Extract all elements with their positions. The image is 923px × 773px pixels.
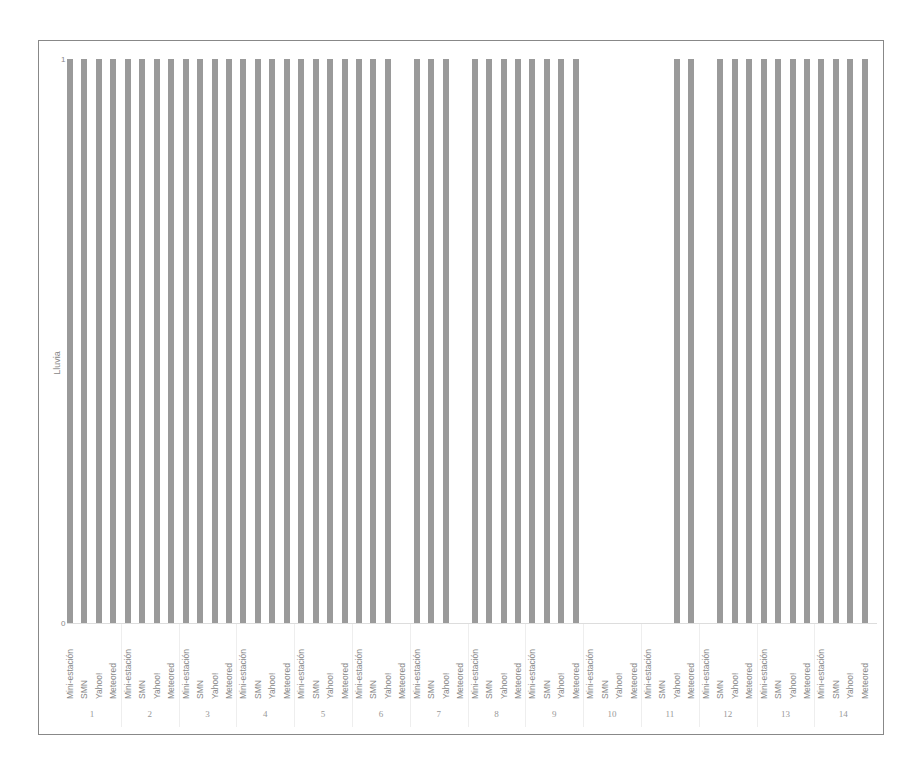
category-label: SMN xyxy=(715,680,725,699)
bar xyxy=(515,59,521,623)
bar xyxy=(298,59,304,623)
group-divider xyxy=(121,624,122,727)
bar xyxy=(443,59,449,623)
group-label: 13 xyxy=(781,709,790,719)
category-label: Yahoo! xyxy=(210,673,220,699)
group-label: 3 xyxy=(205,709,210,719)
chart-frame: Lluvia 1 0 1Mini-estaciónSMNYahoo!Meteor… xyxy=(38,40,884,735)
group-label: 12 xyxy=(723,709,732,719)
bar xyxy=(255,59,261,623)
bar xyxy=(313,59,319,623)
category-label: Yahoo! xyxy=(383,673,393,699)
category-label: SMN xyxy=(253,680,263,699)
bar xyxy=(573,59,579,623)
bar xyxy=(183,59,189,623)
category-label: Mini-estación xyxy=(816,649,826,699)
category-label: Yahoo! xyxy=(325,673,335,699)
bar xyxy=(240,59,246,623)
bar xyxy=(356,59,362,623)
group-divider xyxy=(410,624,411,727)
bar xyxy=(790,59,796,623)
category-label: Meteored xyxy=(340,663,350,699)
category-label: SMN xyxy=(657,680,667,699)
category-label: Mini-estación xyxy=(354,649,364,699)
bar xyxy=(284,59,290,623)
category-label: Meteored xyxy=(397,663,407,699)
group-label: 4 xyxy=(263,709,268,719)
bar xyxy=(385,59,391,623)
category-label: Mini-estación xyxy=(470,649,480,699)
category-label: Mini-estación xyxy=(585,649,595,699)
group-label: 2 xyxy=(147,709,152,719)
category-label: Mini-estación xyxy=(412,649,422,699)
y-tick-min: 0 xyxy=(61,619,65,628)
category-label: Mini-estación xyxy=(238,649,248,699)
category-label: Yahoo! xyxy=(499,673,509,699)
category-label: Mini-estación xyxy=(123,649,133,699)
category-label: Mini-estación xyxy=(65,649,75,699)
category-label: SMN xyxy=(600,680,610,699)
bar xyxy=(168,59,174,623)
bar xyxy=(486,59,492,623)
group-divider xyxy=(641,624,642,727)
bar xyxy=(761,59,767,623)
category-label: Meteored xyxy=(744,663,754,699)
category-label: Yahoo! xyxy=(556,673,566,699)
bar xyxy=(212,59,218,623)
bar xyxy=(775,59,781,623)
category-label: Yahoo! xyxy=(267,673,277,699)
category-label: SMN xyxy=(311,680,321,699)
bar xyxy=(197,59,203,623)
category-label: SMN xyxy=(773,680,783,699)
bar xyxy=(139,59,145,623)
group-divider xyxy=(699,624,700,727)
bar xyxy=(847,59,853,623)
group-label: 10 xyxy=(608,709,617,719)
bar xyxy=(414,59,420,623)
bar xyxy=(717,59,723,623)
group-label: 8 xyxy=(494,709,499,719)
category-label: Meteored xyxy=(108,663,118,699)
category-label: SMN xyxy=(484,680,494,699)
category-label: Meteored xyxy=(455,663,465,699)
bar xyxy=(96,59,102,623)
category-label: SMN xyxy=(195,680,205,699)
group-label: 5 xyxy=(321,709,326,719)
bar xyxy=(342,59,348,623)
category-label: Mini-estación xyxy=(527,649,537,699)
category-label: Mini-estación xyxy=(759,649,769,699)
x-axis-baseline xyxy=(67,623,877,624)
category-label: Meteored xyxy=(860,663,870,699)
category-label: Meteored xyxy=(224,663,234,699)
bar xyxy=(558,59,564,623)
category-label: Mini-estación xyxy=(296,649,306,699)
bar xyxy=(544,59,550,623)
bar xyxy=(269,59,275,623)
bar xyxy=(674,59,680,623)
group-label: 9 xyxy=(552,709,557,719)
group-divider xyxy=(468,624,469,727)
bar xyxy=(862,59,868,623)
bar xyxy=(110,59,116,623)
category-label: Yahoo! xyxy=(94,673,104,699)
category-label: Meteored xyxy=(282,663,292,699)
bar xyxy=(804,59,810,623)
group-divider xyxy=(757,624,758,727)
bar xyxy=(370,59,376,623)
bar xyxy=(81,59,87,623)
category-label: Yahoo! xyxy=(152,673,162,699)
category-label: Meteored xyxy=(166,663,176,699)
category-label: Meteored xyxy=(571,663,581,699)
category-label: Meteored xyxy=(802,663,812,699)
category-label: Yahoo! xyxy=(441,673,451,699)
category-label: Mini-estación xyxy=(643,649,653,699)
bar xyxy=(818,59,824,623)
category-label: Yahoo! xyxy=(614,673,624,699)
category-label: Yahoo! xyxy=(845,673,855,699)
category-label: SMN xyxy=(137,680,147,699)
group-label: 14 xyxy=(839,709,848,719)
category-label: SMN xyxy=(368,680,378,699)
category-label: Yahoo! xyxy=(730,673,740,699)
bar xyxy=(688,59,694,623)
category-label: Mini-estación xyxy=(181,649,191,699)
